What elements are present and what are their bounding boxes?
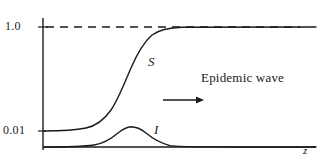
epidemic-wave-figure: 1.0 0.01 S I z Epidemic wave: [0, 0, 326, 163]
y-tick-label-one: 1.0: [5, 20, 21, 32]
curve-label-S: S: [148, 55, 155, 68]
curve-I: [44, 127, 316, 147]
x-axis-label-z: z: [303, 145, 307, 156]
curve-label-I: I: [154, 123, 158, 136]
wave-direction-arrow: [163, 97, 204, 104]
epidemic-wave-annotation: Epidemic wave: [201, 71, 284, 84]
y-tick-label-point-zero-one: 0.01: [3, 124, 25, 136]
